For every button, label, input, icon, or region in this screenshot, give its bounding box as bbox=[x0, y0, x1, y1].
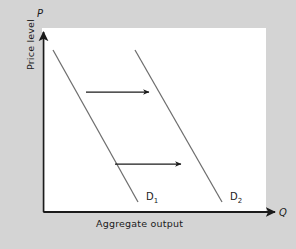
demand-curve-d2 bbox=[135, 50, 222, 202]
y-axis-title: Price level bbox=[25, 19, 36, 70]
d2-subscript: 2 bbox=[238, 197, 242, 205]
diagram-svg bbox=[0, 0, 296, 249]
d2-letter: D bbox=[230, 191, 238, 202]
y-axis-symbol: P bbox=[37, 8, 43, 19]
demand-curve-d1-label: D1 bbox=[146, 191, 158, 205]
d1-subscript: 1 bbox=[154, 197, 158, 205]
demand-curve-d1 bbox=[53, 50, 138, 202]
x-axis-title: Aggregate output bbox=[96, 218, 183, 229]
x-axis-symbol: Q bbox=[279, 207, 287, 218]
d1-letter: D bbox=[146, 191, 154, 202]
figure-canvas: P Q Price level Aggregate output D1 D2 bbox=[0, 0, 296, 249]
demand-curve-d2-label: D2 bbox=[230, 191, 242, 205]
